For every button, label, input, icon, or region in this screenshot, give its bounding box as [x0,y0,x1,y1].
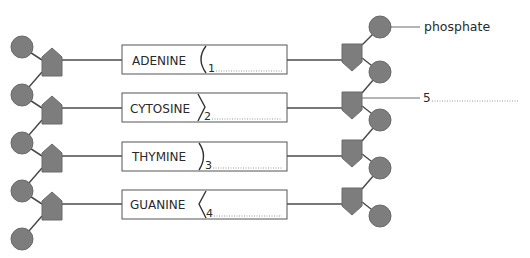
phosphate-circle [369,205,391,227]
label-5: 5 [423,91,431,105]
base-number: 1 [208,62,215,75]
phosphate-circle [369,16,391,38]
phosphate-circle [369,109,391,131]
phosphate-circle [11,180,33,202]
left-sugars [42,48,62,220]
phosphate-circle [11,84,33,106]
sugar-pentagon [342,92,362,119]
phosphate-circle [369,157,391,179]
base-name: CYTOSINE [130,102,190,116]
sugar-pentagon [342,140,362,167]
base-name: THYMINE [131,150,186,164]
sugar-pentagon [342,188,362,215]
sugar-pentagon [42,144,62,172]
base-box-adenine: ADENINE 1 [122,45,287,75]
left-phosphates [11,36,33,250]
phosphate-circle [11,36,33,58]
dna-diagram: ADENINE 1 CYTOSINE 2 THYMINE 3 GUANINE 4… [0,0,530,258]
right-phosphates [369,16,391,227]
base-name: GUANINE [130,198,185,212]
sugar-pentagon [42,96,62,124]
base-number: 2 [204,110,211,123]
base-number: 3 [205,159,212,172]
base-box-guanine: GUANINE 4 [122,190,287,220]
phosphate-label: phosphate [424,19,490,34]
phosphate-circle [11,132,33,154]
phosphate-circle [11,228,33,250]
base-box-thymine: THYMINE 3 [122,142,287,172]
right-sugars [342,44,362,215]
phosphate-circle [369,61,391,83]
sugar-pentagon [342,44,362,71]
base-links [62,60,342,204]
base-number: 4 [206,207,213,220]
sugar-pentagon [42,192,62,220]
base-box-cytosine: CYTOSINE 2 [122,93,287,123]
sugar-pentagon [42,48,62,76]
base-name: ADENINE [132,54,186,68]
